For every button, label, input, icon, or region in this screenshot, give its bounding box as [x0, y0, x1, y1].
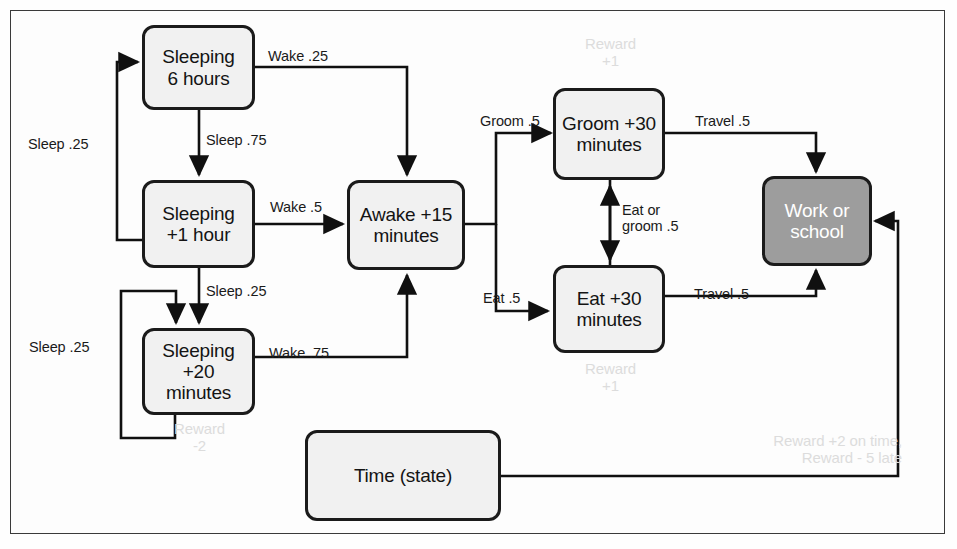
edge-label-travel-5-eat: Travel .5 [694, 286, 749, 302]
edge-label-eat-5: Eat .5 [483, 290, 520, 306]
node-groom-plus-30-minutes[interactable]: Groom +30 minutes [553, 88, 665, 180]
edge-label-sleep-75: Sleep .75 [206, 132, 266, 148]
edge-label-sleep-25-up: Sleep .25 [28, 136, 88, 152]
edge-label-wake-5: Wake .5 [270, 199, 322, 215]
edge-label-eat-or-groom-5: Eat or groom .5 [622, 202, 678, 234]
node-eat-plus-30-minutes[interactable]: Eat +30 minutes [553, 265, 665, 353]
node-sleeping-plus-20-minutes[interactable]: Sleeping +20 minutes [142, 328, 255, 415]
node-sleeping-6-hours[interactable]: Sleeping 6 hours [142, 25, 255, 110]
edge-label-groom-5: Groom .5 [480, 113, 540, 129]
node-time-state[interactable]: Time (state) [305, 430, 501, 521]
reward-label-work: Reward +2 on time, Reward - 5 late [742, 432, 902, 467]
node-sleeping-plus-1-hour[interactable]: Sleeping +1 hour [142, 180, 255, 268]
edge-label-wake-75: Wake .75 [269, 345, 329, 361]
edge-label-sleep-25-down: Sleep .25 [206, 283, 266, 299]
node-work-or-school[interactable]: Work or school [762, 176, 872, 266]
reward-label-groom: Reward +1 [563, 35, 658, 70]
edge-label-sleep-25-self: Sleep .25 [29, 339, 89, 355]
edge-label-travel-5-groom: Travel .5 [695, 113, 750, 129]
edge-label-wake-25: Wake .25 [268, 48, 328, 64]
node-awake-plus-15-minutes[interactable]: Awake +15 minutes [347, 180, 465, 270]
diagram-page: Sleeping 6 hours Sleeping +1 hour Sleepi… [0, 0, 957, 549]
reward-label-sleep20: Reward -2 [152, 420, 247, 455]
reward-label-eat: Reward +1 [563, 360, 658, 395]
